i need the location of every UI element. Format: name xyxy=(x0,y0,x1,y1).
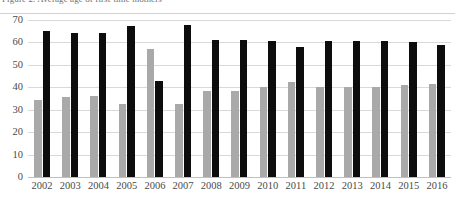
bar-group-2016 xyxy=(423,20,451,177)
bar-gray-series-2007[interactable] xyxy=(175,104,183,177)
x-tick-label-2011: 2011 xyxy=(282,180,310,192)
x-tick-label-2004: 2004 xyxy=(84,180,112,192)
bar-gray-series-2006[interactable] xyxy=(147,49,155,177)
y-tick-label-60: 60 xyxy=(13,37,24,47)
caption-divider xyxy=(0,13,455,14)
bar-group-2010 xyxy=(254,20,282,177)
x-tick-label-2014: 2014 xyxy=(366,180,394,192)
bar-group-2002 xyxy=(28,20,56,177)
bar-group-2015 xyxy=(395,20,423,177)
bar-group-2013 xyxy=(338,20,366,177)
x-tick-label-2006: 2006 xyxy=(141,180,169,192)
x-tick-label-2010: 2010 xyxy=(254,180,282,192)
bar-gray-series-2012[interactable] xyxy=(316,87,324,177)
figure-container: Figure 2. Average age of first-time moth… xyxy=(0,0,455,206)
bar-group-2003 xyxy=(56,20,84,177)
bar-gray-series-2010[interactable] xyxy=(260,87,268,177)
x-tick-label-2013: 2013 xyxy=(338,180,366,192)
bar-gray-series-2009[interactable] xyxy=(231,91,239,177)
bar-black-series-2006[interactable] xyxy=(155,81,163,177)
x-tick-label-2003: 2003 xyxy=(56,180,84,192)
y-tick-label-40: 40 xyxy=(13,82,24,92)
x-tick-label-2012: 2012 xyxy=(310,180,338,192)
bar-black-series-2014[interactable] xyxy=(381,41,389,177)
bar-gray-series-2008[interactable] xyxy=(203,91,211,177)
x-tick-label-2007: 2007 xyxy=(169,180,197,192)
y-tick-label-0: 0 xyxy=(18,172,23,182)
x-tick-label-2008: 2008 xyxy=(197,180,225,192)
y-tick-label-50: 50 xyxy=(13,60,24,70)
y-tick-label-20: 20 xyxy=(13,127,24,137)
bar-gray-series-2003[interactable] xyxy=(62,97,70,177)
x-tick-label-2002: 2002 xyxy=(28,180,56,192)
y-tick-label-10: 10 xyxy=(13,150,24,160)
bar-group-2005 xyxy=(113,20,141,177)
bar-gray-series-2015[interactable] xyxy=(401,85,409,177)
bar-gray-series-2002[interactable] xyxy=(34,100,42,177)
bar-group-2011 xyxy=(282,20,310,177)
y-tick-label-30: 30 xyxy=(13,105,24,115)
bar-black-series-2002[interactable] xyxy=(43,31,51,177)
x-tick-label-2015: 2015 xyxy=(395,180,423,192)
bar-group-2012 xyxy=(310,20,338,177)
bar-group-2006 xyxy=(141,20,169,177)
bar-gray-series-2014[interactable] xyxy=(372,87,380,177)
bar-black-series-2007[interactable] xyxy=(184,25,192,178)
y-tick-label-70: 70 xyxy=(13,15,24,25)
x-tick-label-2005: 2005 xyxy=(113,180,141,192)
bar-black-series-2003[interactable] xyxy=(71,33,79,177)
bar-gray-series-2005[interactable] xyxy=(119,104,127,177)
x-axis-line xyxy=(28,177,451,178)
x-tick-label-2016: 2016 xyxy=(423,180,451,192)
bar-black-series-2013[interactable] xyxy=(353,41,361,177)
bar-group-2007 xyxy=(169,20,197,177)
bar-group-2009 xyxy=(225,20,253,177)
bar-group-2014 xyxy=(366,20,394,177)
bar-black-series-2012[interactable] xyxy=(325,41,333,177)
bar-gray-series-2013[interactable] xyxy=(344,87,352,177)
bar-black-series-2009[interactable] xyxy=(240,40,248,177)
bar-gray-series-2016[interactable] xyxy=(429,84,437,177)
plot-area xyxy=(28,20,451,177)
x-tick-label-2009: 2009 xyxy=(225,180,253,192)
bar-black-series-2004[interactable] xyxy=(99,33,107,177)
bar-black-series-2011[interactable] xyxy=(296,47,304,177)
bar-black-series-2005[interactable] xyxy=(127,26,135,177)
bar-group-2004 xyxy=(84,20,112,177)
bar-gray-series-2004[interactable] xyxy=(90,96,98,177)
y-axis-labels: 010203040506070 xyxy=(0,20,26,177)
bar-group-2008 xyxy=(197,20,225,177)
bar-black-series-2008[interactable] xyxy=(212,40,220,177)
bar-gray-series-2011[interactable] xyxy=(288,82,296,177)
bar-black-series-2010[interactable] xyxy=(268,41,276,177)
bar-black-series-2015[interactable] xyxy=(409,42,417,177)
figure-caption: Figure 2. Average age of first-time moth… xyxy=(2,0,162,4)
x-axis-labels: 2002200320042005200620072008200920102011… xyxy=(28,180,451,200)
bar-black-series-2016[interactable] xyxy=(437,45,445,177)
bar-groups xyxy=(28,20,451,177)
